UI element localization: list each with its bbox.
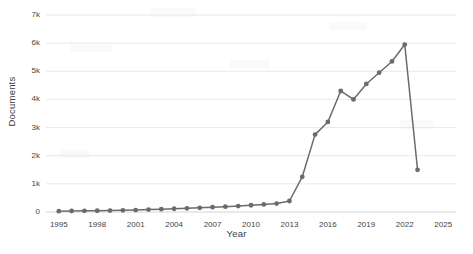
- data-point-marker: [56, 209, 61, 214]
- data-point-marker: [95, 208, 100, 213]
- data-point-marker: [82, 208, 87, 213]
- y-tick-label: 4k: [14, 94, 40, 103]
- data-point-marker: [377, 70, 382, 75]
- data-point-marker: [223, 204, 228, 209]
- data-point-marker: [364, 82, 369, 87]
- plot-area: [0, 0, 473, 254]
- data-point-marker: [133, 208, 138, 213]
- data-point-marker: [249, 203, 254, 208]
- gridlines: [46, 15, 456, 212]
- data-point-marker: [390, 59, 395, 64]
- data-point-marker: [120, 208, 125, 213]
- y-tick-label: 6k: [14, 38, 40, 47]
- data-point-marker: [402, 42, 407, 47]
- y-tick-label: 5k: [14, 66, 40, 75]
- data-point-marker: [185, 206, 190, 211]
- data-point-marker: [287, 199, 292, 204]
- data-point-marker: [351, 97, 356, 102]
- y-tick-label: 1k: [14, 179, 40, 188]
- data-point-marker: [146, 207, 151, 212]
- data-point-marker: [69, 209, 74, 214]
- line-chart: 01k2k3k4k5k6k7k 199519982001200420072010…: [0, 0, 473, 254]
- data-point-marker: [300, 174, 305, 179]
- y-axis-title: Documents: [6, 67, 17, 137]
- data-point-marker: [325, 120, 330, 125]
- data-point-marker: [313, 132, 318, 137]
- data-point-marker: [172, 206, 177, 211]
- data-point-marker: [236, 204, 241, 209]
- data-point-marker: [159, 207, 164, 212]
- data-point-marker: [108, 208, 113, 213]
- y-tick-label: 2k: [14, 151, 40, 160]
- y-tick-label: 7k: [14, 10, 40, 19]
- y-tick-label: 3k: [14, 123, 40, 132]
- data-point-marker: [210, 205, 215, 210]
- data-point-marker: [261, 202, 266, 207]
- y-tick-label: 0: [14, 207, 40, 216]
- data-point-marker: [415, 167, 420, 172]
- data-point-marker: [338, 89, 343, 94]
- x-axis-title: Year: [0, 228, 473, 239]
- data-point-marker: [197, 205, 202, 210]
- data-point-marker: [274, 201, 279, 206]
